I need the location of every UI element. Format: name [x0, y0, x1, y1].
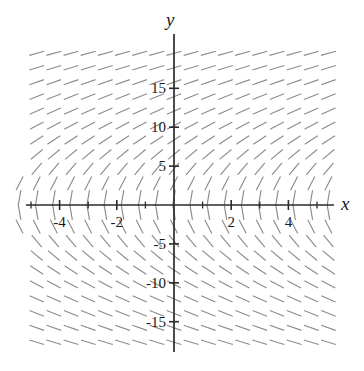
field-segment	[238, 235, 248, 247]
field-segment	[205, 176, 212, 190]
field-segment	[184, 51, 199, 55]
field-segment	[236, 108, 250, 114]
field-segment	[322, 266, 335, 274]
field-segment	[252, 80, 267, 85]
field-segment	[115, 296, 129, 302]
field-segment	[321, 108, 335, 114]
field-segment	[288, 266, 301, 274]
field-segment	[81, 94, 95, 100]
field-segment	[308, 220, 315, 234]
field-segment	[218, 296, 232, 302]
x-tick-label: 2	[215, 215, 247, 230]
field-segment	[150, 296, 164, 302]
field-segment	[119, 176, 126, 190]
field-segment	[220, 163, 230, 175]
field-segment	[255, 235, 265, 247]
field-segment	[18, 190, 21, 205]
field-segment	[99, 266, 112, 274]
field-segment	[16, 220, 23, 234]
field-segment	[270, 65, 285, 70]
field-segment	[235, 311, 249, 317]
x-tick-label: -2	[101, 215, 133, 230]
field-segment	[65, 266, 78, 274]
field-segment	[323, 235, 333, 247]
field-segment	[201, 340, 216, 345]
field-segment	[185, 136, 198, 144]
field-segment	[270, 108, 284, 114]
field-segment	[116, 266, 129, 274]
field-segment	[132, 51, 147, 55]
field-segment	[98, 80, 113, 85]
field-segment	[287, 80, 302, 85]
field-segment	[237, 149, 249, 159]
field-segment	[153, 176, 160, 190]
field-segment	[218, 325, 233, 330]
slope-field-figure: y x 15105-5-10-15-4-224	[0, 0, 364, 371]
field-segment	[219, 122, 233, 129]
field-segment	[252, 65, 267, 70]
field-segment	[184, 80, 199, 85]
field-segment	[287, 296, 301, 302]
field-segment	[47, 80, 62, 85]
field-segment	[115, 65, 130, 70]
field-segment	[273, 176, 280, 190]
y-tick-label: 15	[128, 81, 166, 96]
field-segment	[99, 251, 111, 261]
field-segment	[47, 281, 61, 288]
field-segment	[102, 176, 109, 190]
field-segment	[287, 108, 301, 114]
field-segment	[117, 251, 129, 261]
field-segment	[46, 51, 61, 55]
field-segment	[235, 65, 250, 70]
field-segment	[270, 325, 285, 330]
field-segment	[188, 220, 195, 234]
field-segment	[30, 281, 44, 288]
field-segment	[308, 176, 315, 190]
field-segment	[81, 325, 96, 330]
field-segment	[272, 163, 282, 175]
field-segment	[35, 205, 38, 220]
field-segment	[327, 190, 330, 205]
field-segment	[202, 266, 215, 274]
field-segment	[236, 122, 250, 129]
field-segment	[304, 296, 318, 302]
field-segment	[150, 108, 164, 114]
field-segment	[99, 149, 111, 159]
field-segment	[33, 176, 40, 190]
field-segment	[64, 340, 79, 345]
field-segment	[201, 311, 215, 317]
field-segment	[64, 296, 78, 302]
field-segment	[138, 190, 141, 205]
field-segment	[47, 296, 61, 302]
field-segment	[186, 235, 196, 247]
field-segment	[304, 122, 318, 129]
field-segment	[323, 251, 335, 261]
field-segment	[304, 340, 319, 345]
field-segment	[310, 190, 313, 205]
field-segment	[205, 220, 212, 234]
field-segment	[201, 80, 216, 85]
field-segment	[64, 51, 79, 55]
field-segment	[133, 136, 146, 144]
field-segment	[270, 296, 284, 302]
field-segment	[151, 251, 163, 261]
field-segment	[304, 108, 318, 114]
field-segment	[327, 205, 330, 220]
field-segment	[270, 136, 283, 144]
field-segment	[47, 94, 61, 100]
field-segment	[252, 340, 267, 345]
field-segment	[289, 163, 299, 175]
field-segment	[241, 190, 244, 205]
field-segment	[305, 136, 318, 144]
field-segment	[185, 266, 198, 274]
field-segment	[190, 190, 193, 205]
field-segment	[29, 51, 44, 55]
field-segment	[255, 163, 265, 175]
field-segment	[53, 190, 56, 205]
field-segment	[222, 176, 229, 190]
field-segment	[30, 122, 44, 129]
field-segment	[238, 163, 248, 175]
field-segment	[81, 311, 95, 317]
y-tick-label: 10	[128, 120, 166, 135]
field-segment	[48, 149, 60, 159]
